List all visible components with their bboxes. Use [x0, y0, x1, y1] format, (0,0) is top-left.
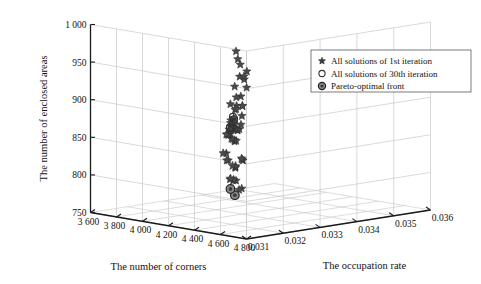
- tick-label: 750: [72, 208, 87, 218]
- tick-label: 0.033: [321, 230, 343, 240]
- tick-label: 4 000: [130, 225, 152, 235]
- tick-label: 3 800: [104, 221, 126, 231]
- legend-item-label: All solutions of 1st iteration: [331, 56, 432, 66]
- tick-label: 4 400: [182, 234, 204, 244]
- tick-label: 0.035: [395, 219, 417, 229]
- legend-item-label: Pareto-optimal front: [331, 81, 405, 91]
- filled-circle-core: [229, 187, 233, 191]
- figure-container: 4 8004 6004 4004 2004 0003 8003 6000.031…: [0, 0, 481, 284]
- tick-label: 0.032: [285, 236, 307, 246]
- tick-label: 0.036: [432, 213, 454, 223]
- tick-label: 3 600: [78, 217, 100, 227]
- tick-label: 0.034: [358, 225, 380, 235]
- tick-label: 4 600: [208, 239, 230, 249]
- tick-label: 950: [72, 58, 87, 68]
- y-axis-title: The occupation rate: [323, 260, 407, 271]
- tick-label: 900: [72, 95, 87, 105]
- legend-item-label: All solutions of 30th iteration: [331, 69, 438, 79]
- tick-label: 4 200: [156, 230, 178, 240]
- filled-circle-core: [320, 84, 323, 87]
- legend: All solutions of 1st iterationAll soluti…: [311, 50, 471, 92]
- scatter-3d-plot: 4 8004 6004 4004 2004 0003 8003 6000.031…: [0, 0, 481, 284]
- tick-label: 800: [72, 170, 87, 180]
- filled-circle-core: [233, 193, 237, 197]
- z-axis-title: The number of enclosed areas: [38, 56, 49, 182]
- tick-label: 1 000: [65, 20, 87, 30]
- tick-label: 0.031: [248, 242, 270, 252]
- x-axis-title: The number of corners: [111, 261, 207, 272]
- tick-label: 850: [72, 133, 87, 143]
